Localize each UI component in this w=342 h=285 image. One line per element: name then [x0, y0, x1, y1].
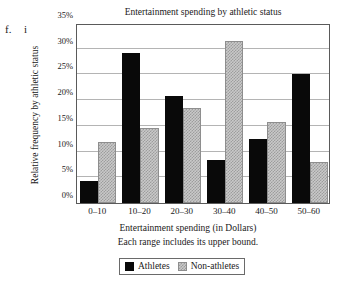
bar-group — [80, 25, 116, 203]
bar-group — [249, 25, 285, 203]
x-axis-tick-label: 10–20 — [118, 206, 160, 217]
y-axis-tick-label: 20% — [33, 88, 73, 96]
x-axis-tick-label: 30–40 — [203, 206, 245, 217]
bars-layer — [77, 25, 329, 203]
bar-athletes — [292, 74, 310, 203]
bar-athletes — [165, 96, 183, 203]
chart-title: Entertainment spending by athletic statu… — [76, 7, 330, 18]
x-axis-note: Each range includes its upper bound. — [46, 236, 330, 248]
plot-area: 0%5%10%15%20%25%30%35% — [76, 24, 330, 204]
y-axis-tick-label: 5% — [33, 165, 73, 173]
x-axis-tick-label: 0–10 — [76, 206, 118, 217]
bar-group — [292, 25, 328, 203]
bar-group — [207, 25, 243, 203]
legend-swatch-icon — [125, 262, 134, 271]
legend-label: Athletes — [138, 261, 170, 272]
x-axis-tick-labels: 0–1010–2020–3030–4040–5050–60 — [76, 206, 330, 220]
bar-athletes — [249, 139, 267, 203]
bar-group — [165, 25, 201, 203]
y-axis-tick-label: 10% — [33, 140, 73, 148]
y-axis-tick-label: 25% — [33, 62, 73, 70]
legend-item-non-athletes: Non-athletes — [178, 261, 240, 272]
bar-non-athletes — [267, 122, 285, 203]
list-marker-letter: f. — [5, 24, 11, 35]
y-axis-tick-label: 0% — [33, 191, 73, 199]
x-axis-title: Entertainment spending (in Dollars) — [46, 222, 330, 234]
legend-swatch-icon — [178, 262, 187, 271]
bar-non-athletes — [183, 108, 201, 203]
x-axis-tick-label: 50–60 — [288, 206, 330, 217]
bar-non-athletes — [225, 41, 243, 203]
x-axis-tick-label: 20–30 — [161, 206, 203, 217]
legend-item-athletes: Athletes — [125, 261, 170, 272]
bar-group — [122, 25, 158, 203]
bar-athletes — [122, 53, 140, 203]
bar-athletes — [207, 160, 225, 203]
list-marker-roman: i — [24, 24, 27, 35]
y-axis-tick-label: 30% — [33, 37, 73, 45]
bar-non-athletes — [140, 128, 158, 203]
legend-label: Non-athletes — [191, 261, 240, 272]
y-axis-tick-label: 35% — [33, 11, 73, 19]
y-axis-tick-label: 15% — [33, 114, 73, 122]
chart-legend: AthletesNon-athletes — [119, 258, 245, 275]
bar-athletes — [80, 181, 98, 203]
bar-non-athletes — [98, 142, 116, 203]
bar-non-athletes — [310, 162, 328, 203]
chart-figure: f. i Entertainment spending by athletic … — [0, 0, 342, 285]
x-axis-tick-label: 40–50 — [245, 206, 287, 217]
